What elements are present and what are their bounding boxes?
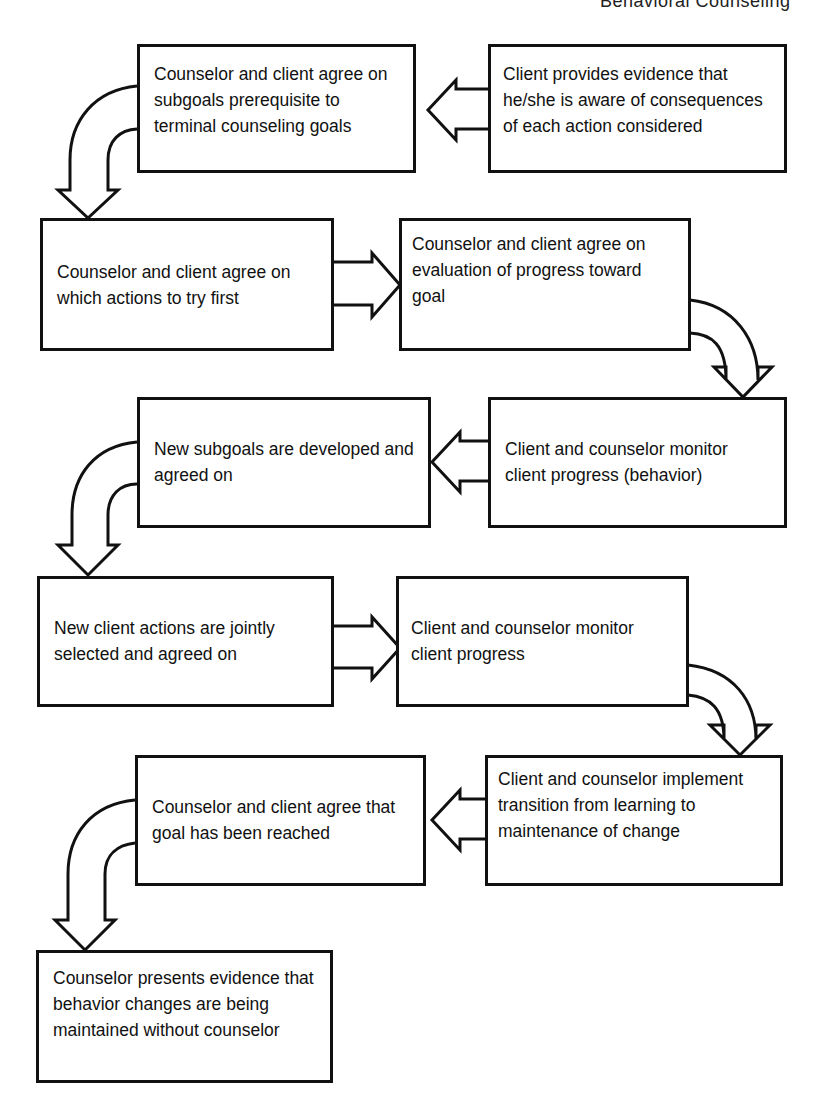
step-text: Client provides evidence that he/she is … — [503, 61, 770, 139]
step-text: Counselor and client agree on subgoals p… — [154, 61, 399, 139]
step-box-1: Counselor and client agree on subgoals p… — [137, 44, 416, 173]
step-text: Client and counselor implement transitio… — [498, 766, 766, 844]
curved-arrow-down-right-icon — [688, 665, 770, 755]
curved-arrow-down-right-icon — [690, 300, 772, 397]
step-box-6: Client and counselor monitor client prog… — [488, 397, 787, 528]
curved-arrow-down-left-icon — [58, 86, 137, 218]
arrow-left-icon — [428, 80, 488, 140]
step-text: Client and counselor monitor client prog… — [505, 436, 770, 488]
step-box-3: Counselor and client agree on which acti… — [40, 218, 334, 351]
curved-arrow-down-left-icon — [55, 800, 135, 950]
step-text: Counselor and client agree that goal has… — [152, 794, 409, 846]
arrow-left-icon — [432, 432, 488, 492]
arrow-right-icon — [333, 617, 400, 679]
step-text: Counselor and client agree on evaluation… — [412, 231, 674, 309]
step-box-9: Counselor and client agree that goal has… — [135, 755, 426, 886]
step-box-11: Counselor presents evidence that behavio… — [36, 950, 333, 1083]
step-box-4: Counselor and client agree on evaluation… — [399, 218, 691, 351]
step-box-2: Client provides evidence that he/she is … — [488, 44, 787, 173]
step-text: New client actions are jointly selected … — [54, 615, 317, 667]
step-text: Client and counselor monitor client prog… — [411, 615, 672, 667]
step-text: Counselor and client agree on which acti… — [57, 259, 317, 311]
step-text: Counselor presents evidence that behavio… — [53, 965, 316, 1043]
arrow-left-icon — [432, 790, 485, 850]
step-box-5: New subgoals are developed and agreed on — [137, 397, 431, 528]
step-text: New subgoals are developed and agreed on — [154, 436, 414, 488]
step-box-8: Client and counselor monitor client prog… — [396, 576, 689, 707]
curved-arrow-down-left-icon — [58, 442, 137, 575]
step-box-10: Client and counselor implement transitio… — [485, 755, 783, 886]
step-box-7: New client actions are jointly selected … — [37, 576, 334, 707]
arrow-right-icon — [333, 253, 400, 317]
